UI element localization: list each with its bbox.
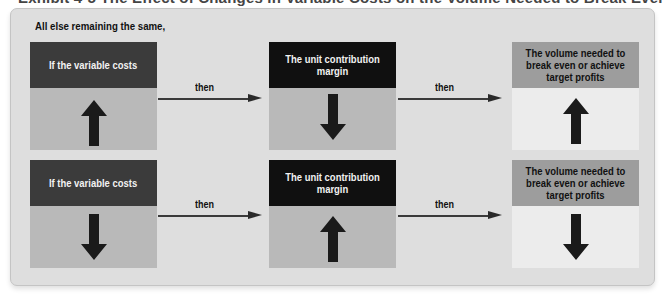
effect-header: The unit contribution margin (269, 42, 396, 88)
cause-body (30, 206, 157, 268)
cause-header: If the variable costs (30, 160, 157, 206)
arrowhead-icon (248, 94, 262, 102)
intro-text: All else remaining the same, (35, 20, 165, 32)
row1-cause-box: If the variable costs (30, 42, 157, 150)
then-label: then (435, 199, 454, 210)
connector-line (398, 98, 492, 100)
arrow-up-icon (320, 216, 346, 262)
row1-connector-2: then (398, 88, 502, 108)
row2-cause-box: If the variable costs (30, 160, 157, 268)
result-body (512, 88, 639, 150)
then-label: then (195, 199, 214, 210)
arrow-up-icon (81, 100, 107, 146)
row1-connector-1: then (158, 88, 262, 108)
effect-body (269, 88, 396, 150)
connector-line (158, 215, 252, 217)
arrow-up-icon (563, 98, 589, 144)
arrow-down-icon (563, 214, 589, 260)
row1-effect-box: The unit contribution margin (269, 42, 396, 150)
cause-header: If the variable costs (30, 42, 157, 88)
result-body (512, 206, 639, 268)
row2-connector-1: then (158, 205, 262, 225)
then-label: then (435, 82, 454, 93)
row2-effect-box: The unit contribution margin (269, 160, 396, 268)
arrow-down-icon (320, 94, 346, 140)
connector-line (158, 98, 252, 100)
effect-body (269, 206, 396, 268)
arrow-down-icon (81, 214, 107, 260)
then-label: then (195, 82, 214, 93)
row1-result-box: The volume needed to break even or achie… (512, 42, 639, 150)
arrowhead-icon (248, 211, 262, 219)
arrowhead-icon (488, 94, 502, 102)
arrowhead-icon (488, 211, 502, 219)
result-header: The volume needed to break even or achie… (512, 42, 639, 88)
row2-result-box: The volume needed to break even or achie… (512, 160, 639, 268)
connector-line (398, 215, 492, 217)
effect-header: The unit contribution margin (269, 160, 396, 206)
cause-body (30, 88, 157, 150)
result-header: The volume needed to break even or achie… (512, 160, 639, 206)
row2-connector-2: then (398, 205, 502, 225)
figure-title-cut-off: Exhibit 4-5 The Effect of Changes in Var… (0, 0, 663, 3)
